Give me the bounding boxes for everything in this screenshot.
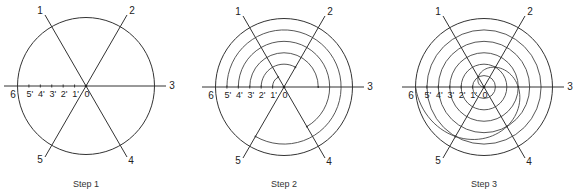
ray-label-2: 2 [129,5,135,16]
ray-label-2: 2 [527,6,533,17]
ray-label-6: 6 [208,90,214,101]
scale-label: 5' [225,90,232,100]
ray-label-3: 3 [567,81,573,92]
scale-label: 4' [38,89,45,99]
scale-label: 4' [436,90,443,100]
scale-label: 4' [236,90,243,100]
ray-label-2: 2 [327,6,333,17]
ray-label-3: 3 [367,81,373,92]
scale-label: 2' [459,90,466,100]
construction-arc-4 [238,41,329,126]
construction-arc-1 [273,77,279,87]
scale-label: 3' [447,90,454,100]
step-2-panel: 1234565'4'3'2'1'0Step 2 [202,6,373,189]
ray-label-4: 4 [326,156,332,167]
ray-label-4: 4 [128,155,134,166]
scale-label: 1' [72,89,79,99]
center-point [283,86,286,89]
ray-label-1: 1 [37,5,43,16]
scale-label: 2' [259,90,266,100]
step-1-panel: 1234565'4'3'2'1'0Step 1 [4,5,175,189]
ray-label-6: 6 [408,90,414,101]
scale-label: 3' [247,90,254,100]
ray-label-4: 4 [526,156,532,167]
ray-label-6: 6 [10,89,16,100]
scale-label: 0 [282,90,287,100]
scale-label: 1' [270,90,277,100]
scale-label: 1' [470,90,477,100]
ray-label-5: 5 [235,155,241,166]
ray-label-5: 5 [435,155,441,166]
step-caption: Step 1 [73,179,99,189]
spiral-construction-figure: 1234565'4'3'2'1'0Step 11234565'4'3'2'1'0… [0,0,575,196]
scale-label: 2' [61,89,68,99]
scale-label: 5' [425,90,432,100]
step-caption: Step 3 [471,179,497,189]
step-3-panel: 1234565'4'3'2'1'0Step 3 [402,6,573,189]
step-caption: Step 2 [271,179,297,189]
scale-label: 3' [49,89,56,99]
ray-label-1: 1 [435,6,441,17]
scale-label: 0 [482,90,487,100]
center-point [483,86,486,89]
center-point [85,85,88,88]
scale-label: 5' [27,89,34,99]
scale-label: 0 [84,89,89,99]
construction-arc-3 [250,53,319,87]
ray-label-3: 3 [169,80,175,91]
ray-label-5: 5 [37,154,43,165]
ray-label-1: 1 [235,6,241,17]
